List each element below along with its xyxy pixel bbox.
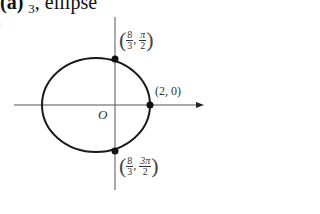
point-right xyxy=(147,102,154,109)
axis-arrow-icon xyxy=(196,102,204,108)
origin-label: O xyxy=(98,107,107,123)
label-top-point: (83, π2) xyxy=(119,27,154,53)
point-top xyxy=(112,56,119,63)
label-bottom-point: (83, 3π2) xyxy=(119,153,159,179)
label-right-point: (2, 0) xyxy=(155,84,181,99)
point-bottom xyxy=(112,148,119,155)
